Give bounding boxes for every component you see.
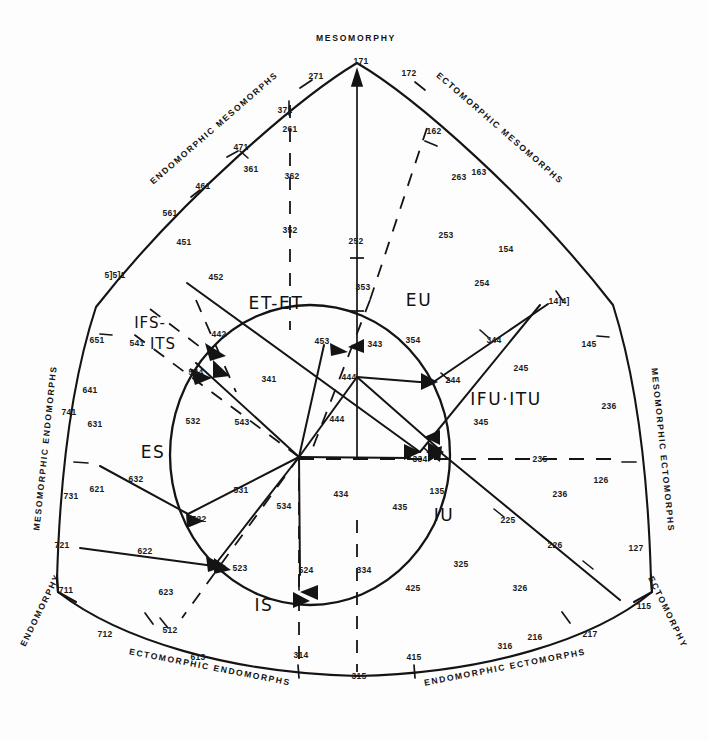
somatotype-number: 314 — [294, 650, 309, 660]
somatotype-number: 353 — [356, 282, 371, 292]
region-label: IFU·ITU — [470, 389, 542, 409]
somatotype-number: 341 — [262, 374, 277, 384]
spoke-se — [299, 457, 410, 458]
region-label: IU — [434, 505, 455, 525]
region-label: IS — [254, 595, 273, 615]
somatotype-number: 711 — [59, 585, 73, 595]
arrowhead-group — [186, 339, 444, 608]
somatotype-number: 631 — [88, 419, 103, 429]
tick-edge — [300, 80, 312, 88]
somatotype-number: 622 — [138, 546, 153, 556]
somatotype-number: 471 — [234, 142, 249, 152]
somatotype-number: 371 — [278, 105, 293, 115]
somatotype-number: 444 — [330, 414, 345, 424]
hatch-tick — [583, 561, 593, 569]
tick-edge — [562, 612, 570, 623]
somatotype-number: 641 — [83, 385, 98, 395]
somatotype-number: 512 — [163, 625, 178, 635]
somatotype-number: 522 — [192, 514, 207, 524]
somatotype-number: 461 — [196, 181, 211, 191]
axis-arrow-up — [352, 70, 362, 86]
somatotype-number: 135 — [430, 486, 445, 496]
somatotype-number: 435 — [393, 502, 408, 512]
vector-upper-left — [187, 283, 420, 452]
somatotype-number: 325 — [454, 559, 469, 569]
somatotype-number: 531 — [234, 485, 249, 495]
somatotype-number: 5]5]1 — [105, 270, 126, 280]
arrowhead — [213, 360, 230, 378]
somatotype-number: 561 — [163, 208, 178, 218]
somatotype-number: 172 — [402, 68, 417, 78]
somatotype-number: 721 — [55, 540, 70, 550]
somatotype-number: 523 — [233, 563, 248, 573]
somatotype-number: 126 — [594, 475, 609, 485]
somatotype-number: 244 — [446, 375, 461, 385]
arrowhead — [214, 558, 231, 574]
somatotype-number: 217 — [583, 629, 598, 639]
somatotype-number: 261 — [283, 124, 298, 134]
spoke-s — [299, 457, 300, 575]
somatotype-number: 453 — [315, 336, 330, 346]
somatotype-number: 162 — [427, 126, 442, 136]
somatotype-number: 171 — [354, 56, 369, 66]
somatotype-number: 334 — [357, 565, 372, 575]
somatotype-number: 236 — [602, 401, 617, 411]
somatotype-number: 712 — [98, 629, 113, 639]
somatotype-number: 127 — [629, 543, 644, 553]
spoke-ne3 — [357, 377, 440, 450]
somatotype-number: 415 — [407, 652, 422, 662]
somatotype-number: 651 — [90, 335, 105, 345]
somatotype-number: 235 — [533, 454, 548, 464]
region-label: ES — [141, 442, 166, 462]
somatotype-number: 334 — [413, 454, 428, 464]
somatotype-number: 315 — [352, 671, 367, 681]
somatochart-diagram: MESOMORPHYENDOMORPHYECTOMORPHY ENDOMORPH… — [0, 0, 708, 741]
somatotype-number: 225 — [501, 515, 516, 525]
spoke-sw — [214, 457, 299, 566]
somatotype-number: 442 — [212, 329, 227, 339]
somatotype-number: 316 — [498, 641, 513, 651]
somatotype-number: 741 — [62, 407, 77, 417]
outline-right-edge — [357, 63, 652, 592]
somatotype-number: 434 — [334, 489, 349, 499]
somatotype-number: 451 — [177, 237, 192, 247]
somatotype-number: 534 — [277, 501, 292, 511]
somatotype-number: 254 — [475, 278, 490, 288]
somatotype-number: 226 — [548, 540, 563, 550]
somatotype-number: 731 — [64, 491, 79, 501]
somatotype-number: 524 — [299, 565, 314, 575]
somatotype-number: 154 — [499, 244, 514, 254]
somatotype-number: 544 — [189, 367, 204, 377]
somatotype-number: 362 — [285, 171, 300, 181]
somatotype-number: 532 — [186, 416, 201, 426]
somatotype-number: 343 — [368, 339, 383, 349]
tick-edge — [415, 82, 425, 90]
somatotype-number: 425 — [406, 583, 421, 593]
somatotype-number: 245 — [514, 363, 529, 373]
tick-edge — [298, 665, 299, 678]
region-label: EU — [406, 290, 432, 310]
somatotype-number: 216 — [528, 632, 543, 642]
spoke-ne2 — [357, 377, 432, 383]
somatotype-number: 115 — [637, 601, 651, 611]
somatotype-number: 252 — [349, 236, 364, 246]
somatotype-number: 352 — [283, 225, 298, 235]
somatotype-number: 145 — [582, 339, 597, 349]
tick-edge — [74, 462, 88, 463]
region-label: ITS — [150, 335, 176, 353]
tick-edge — [414, 665, 415, 678]
somatotype-number: 344 — [487, 335, 502, 345]
somatotype-number: 326 — [513, 583, 528, 593]
somatotype-number: 541 — [130, 338, 145, 348]
somatotype-number: 613 — [191, 652, 206, 662]
region-label: ET-ET — [249, 293, 304, 313]
sector-divider-right-dashed — [370, 128, 427, 300]
somatotype-number: 623 — [159, 587, 174, 597]
somatotype-number: 621 — [90, 484, 105, 494]
somatotype-number: 14]4] — [549, 296, 570, 306]
somatotype-number: 345 — [474, 417, 489, 427]
somatotype-number: 236 — [553, 489, 568, 499]
tick-edge — [425, 141, 437, 146]
somatotype-number: 263 — [452, 172, 467, 182]
arrowhead — [330, 343, 348, 356]
